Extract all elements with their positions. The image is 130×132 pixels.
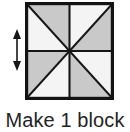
double-headed-vertical-arrow-icon [11, 29, 23, 71]
figure-caption: Make 1 block [0, 108, 130, 132]
pinwheel-block [25, 2, 114, 100]
block-seam-lines [25, 2, 114, 100]
figure-panel: Make 1 block [0, 0, 130, 132]
